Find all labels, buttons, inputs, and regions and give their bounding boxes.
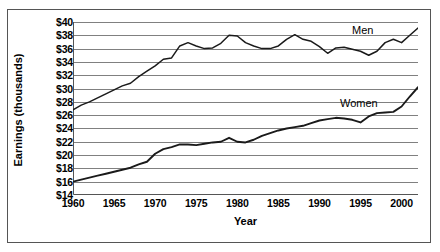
x-tick-label: 1975: [173, 198, 219, 209]
y-tick-label: $28: [39, 97, 73, 108]
x-axis-title: Year: [73, 215, 418, 227]
y-tick-label: $16: [39, 177, 73, 188]
y-axis-title: Earnings (thousands): [12, 30, 24, 190]
y-tick-label: $26: [39, 110, 73, 121]
y-tick-label: $20: [39, 150, 73, 161]
x-tick-label: 1965: [91, 198, 137, 209]
x-tick-label: 1980: [214, 198, 260, 209]
series-label-women: Women: [340, 97, 378, 109]
y-tick-label: $24: [39, 123, 73, 134]
y-tick-label: $40: [39, 17, 73, 28]
y-axis-tick-labels: $14$16$18$20$22$24$26$28$30$32$34$36$38$…: [33, 0, 73, 252]
x-tick-label: 1995: [338, 198, 384, 209]
y-tick-label: $38: [39, 30, 73, 41]
y-tick-label: $30: [39, 84, 73, 95]
x-tick-label: 2000: [379, 198, 425, 209]
x-tick-label: 1990: [296, 198, 342, 209]
y-tick-label: $18: [39, 163, 73, 174]
series-label-men: Men: [352, 24, 373, 36]
x-tick-label: 1960: [50, 198, 96, 209]
y-tick-label: $34: [39, 57, 73, 68]
y-tick-label: $22: [39, 137, 73, 148]
chart-figure: $14$16$18$20$22$24$26$28$30$32$34$36$38$…: [0, 0, 440, 252]
x-tick-label: 1985: [255, 198, 301, 209]
x-tick-label: 1970: [132, 198, 178, 209]
y-tick-label: $32: [39, 70, 73, 81]
y-tick-label: $36: [39, 44, 73, 55]
